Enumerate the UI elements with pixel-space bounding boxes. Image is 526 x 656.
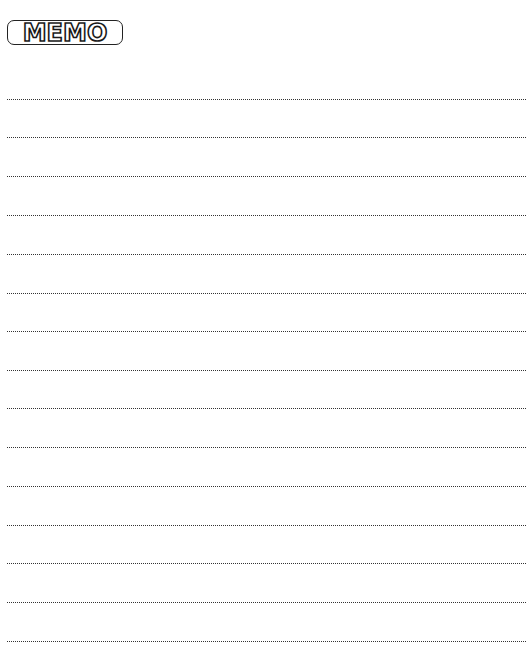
memo-line-10[interactable]: [7, 447, 526, 448]
memo-line-2[interactable]: [7, 137, 526, 138]
memo-line-13[interactable]: [7, 563, 526, 564]
memo-line-15[interactable]: [7, 641, 526, 642]
memo-line-14[interactable]: [7, 602, 526, 603]
memo-line-3[interactable]: [7, 176, 526, 177]
memo-line-6[interactable]: [7, 293, 526, 294]
memo-line-1[interactable]: [7, 99, 526, 100]
memo-lines-area: [0, 0, 526, 656]
memo-line-9[interactable]: [7, 408, 526, 409]
memo-line-12[interactable]: [7, 525, 526, 526]
memo-line-4[interactable]: [7, 215, 526, 216]
memo-line-8[interactable]: [7, 370, 526, 371]
memo-line-11[interactable]: [7, 486, 526, 487]
memo-line-7[interactable]: [7, 331, 526, 332]
memo-line-5[interactable]: [7, 254, 526, 255]
